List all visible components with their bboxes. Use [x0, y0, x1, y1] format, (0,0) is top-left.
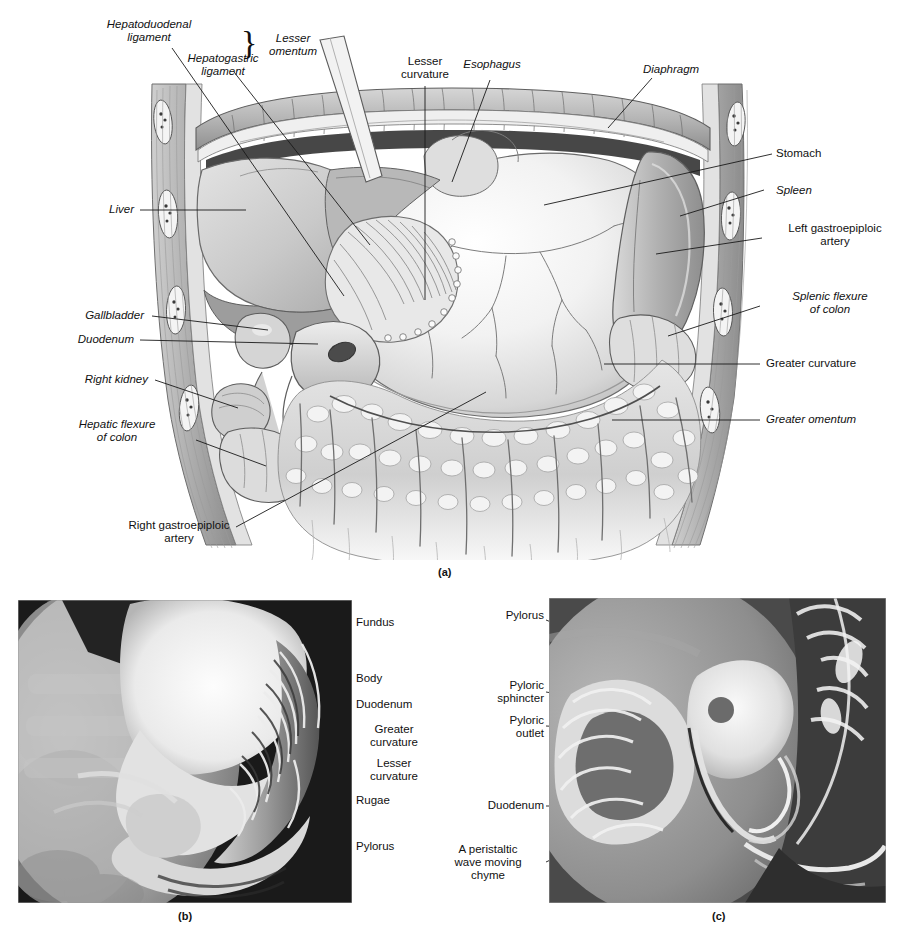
- label-hepatic-flexure-of-colon: Hepatic flexure of colon: [58, 418, 176, 444]
- label-hepatoduodenal-ligament: Hepatoduodenal ligament: [88, 18, 210, 44]
- label-lesser-curvature: Lesser curvature: [389, 55, 461, 81]
- figure-stomach-anatomy: Hepatoduodenal ligament Hepatogastric li…: [0, 0, 906, 933]
- label-b-body: Body: [356, 672, 446, 685]
- label-diaphragm: Diaphragm: [631, 63, 711, 76]
- gallbladder: [235, 313, 290, 368]
- label-b-rugae: Rugae: [356, 794, 446, 807]
- panel-c-caption: (c): [712, 910, 725, 922]
- duodenum: [248, 322, 380, 471]
- body-wall-left: [152, 84, 252, 548]
- lesser-omentum: [325, 216, 461, 342]
- label-b-greater-curvature: Greater curvature: [352, 723, 436, 749]
- spleen: [613, 152, 704, 360]
- hepatic-flexure-of-colon: [220, 428, 310, 503]
- splenic-flexure-of-colon: [610, 315, 696, 391]
- label-greater-curvature: Greater curvature: [766, 357, 906, 370]
- label-c-peristaltic-wave: A peristaltic wave moving chyme: [430, 843, 546, 882]
- label-c-duodenum: Duodenum: [434, 799, 544, 812]
- esophagus-cardia: [424, 130, 518, 196]
- lesser-omentum-brace: }: [241, 26, 257, 60]
- panel-b-radiograph: [18, 600, 352, 903]
- diaphragm: [196, 88, 710, 176]
- label-c-pyloric-sphincter: Pyloric sphincter: [440, 679, 544, 705]
- panel-a-caption: (a): [438, 566, 451, 578]
- label-b-fundus: Fundus: [356, 616, 446, 629]
- stomach: [329, 153, 676, 417]
- panel-b-caption: (b): [178, 910, 192, 922]
- label-b-lesser-curvature: Lesser curvature: [352, 757, 436, 783]
- label-stomach: Stomach: [776, 147, 896, 160]
- label-esophagus: Esophagus: [452, 58, 532, 71]
- panel-a-leaders: [140, 48, 772, 527]
- liver: [197, 158, 440, 345]
- label-liver: Liver: [56, 203, 134, 216]
- label-lesser-omentum: Lesser omentum: [258, 32, 328, 58]
- label-spleen: Spleen: [776, 184, 896, 197]
- label-right-kidney: Right kidney: [42, 373, 148, 386]
- probe-instrument: [320, 36, 382, 182]
- label-right-gastroepiploic-artery: Right gastroepiploic artery: [114, 519, 244, 545]
- label-left-gastroepiploic-artery: Left gastroepiploic artery: [768, 222, 902, 248]
- label-duodenum: Duodenum: [44, 333, 134, 346]
- label-c-pyloric-outlet: Pyloric outlet: [440, 714, 544, 740]
- greater-omentum: [278, 360, 701, 572]
- right-kidney: [212, 384, 270, 440]
- label-splenic-flexure-of-colon: Splenic flexure of colon: [766, 290, 894, 316]
- label-c-pylorus: Pylorus: [440, 609, 544, 622]
- label-gallbladder: Gallbladder: [44, 309, 144, 322]
- body-wall-right: [656, 84, 747, 548]
- label-greater-omentum: Greater omentum: [766, 413, 906, 426]
- panel-c-radiograph: [549, 598, 886, 903]
